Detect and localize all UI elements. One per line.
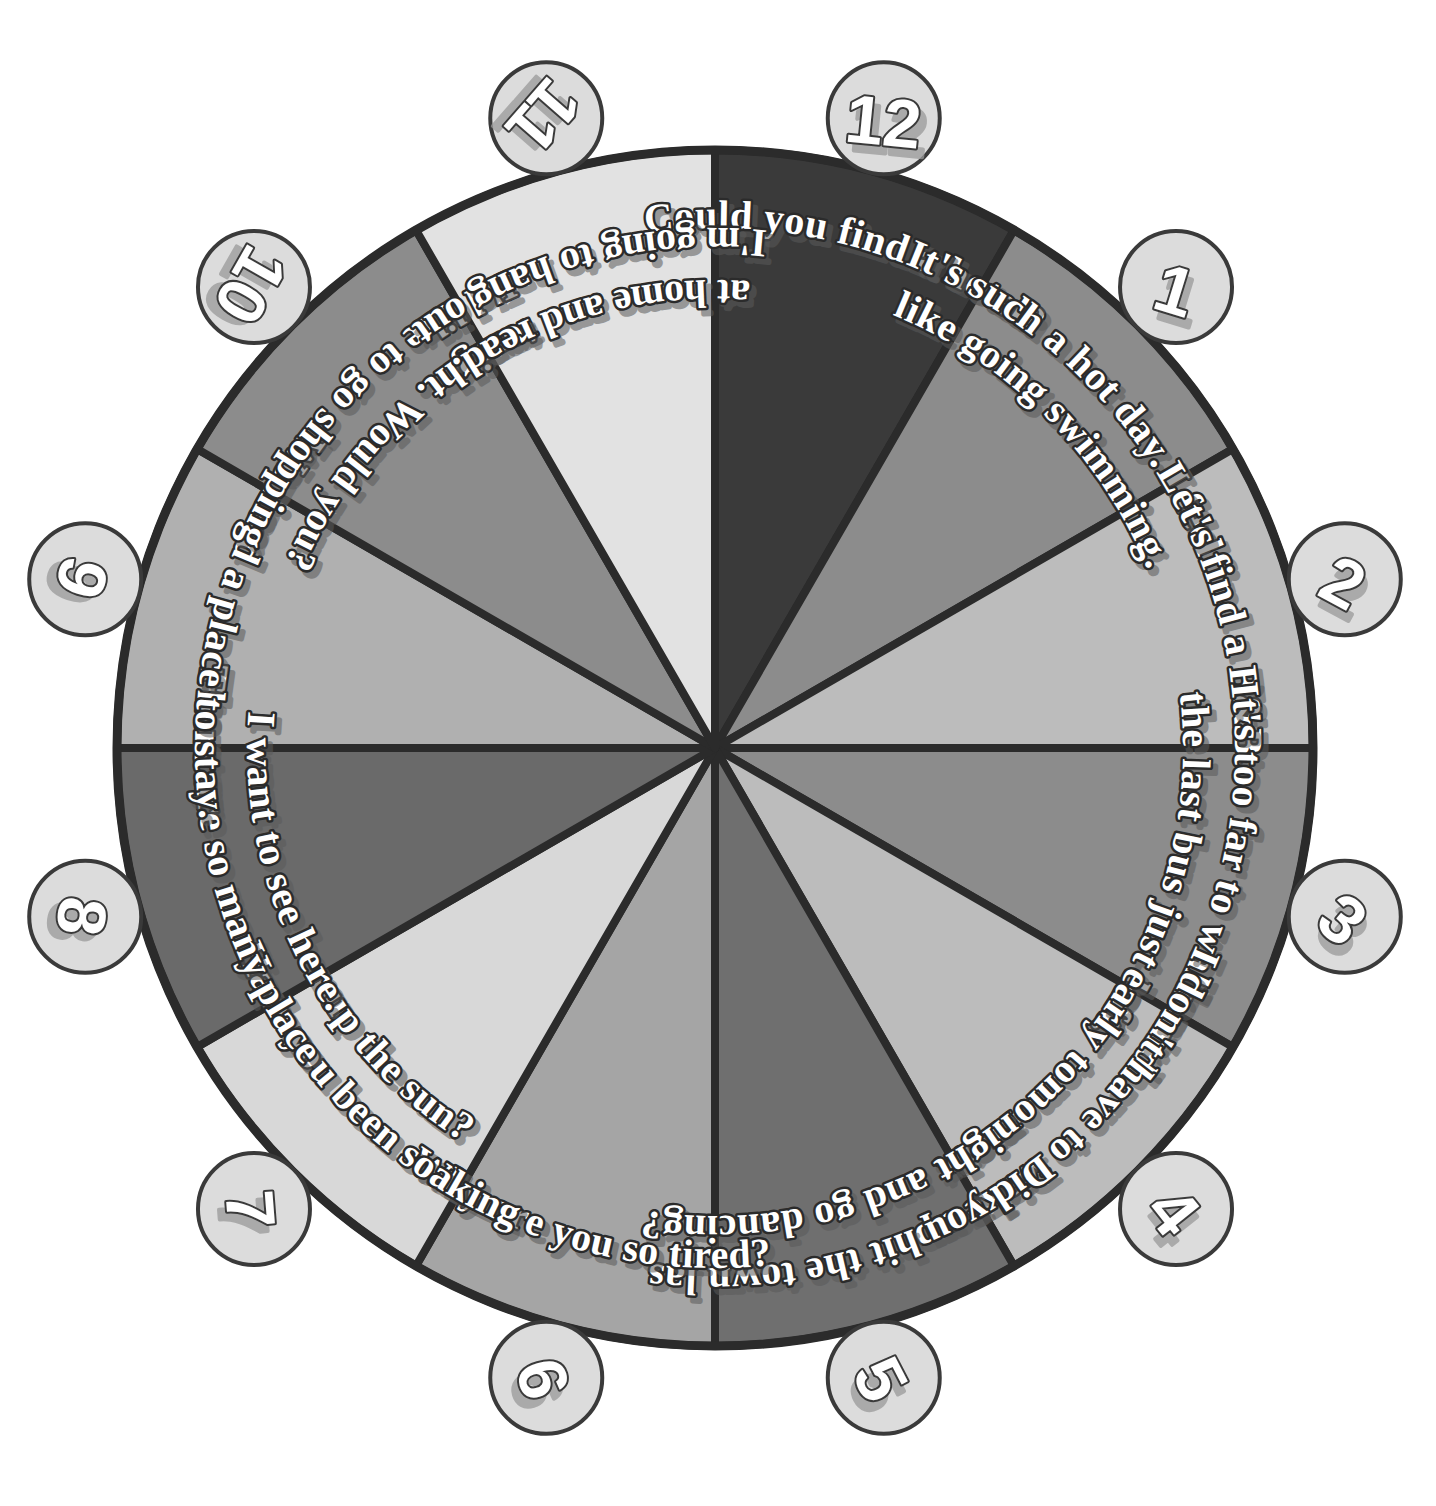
conversation-wheel[interactable]: Could you find a hotel?Could you find a …	[0, 0, 1436, 1506]
wheel-stage: Could you find a hotel?Could you find a …	[0, 0, 1436, 1506]
wheel-wedges[interactable]	[117, 150, 1313, 1346]
number-marker-label-12: 12	[842, 80, 925, 163]
number-marker-label-7: 7	[212, 1187, 291, 1231]
